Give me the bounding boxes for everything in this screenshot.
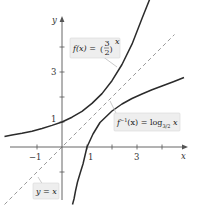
x-tick-label-neg1: −1 (29, 152, 42, 162)
exponential-label-prefix: f(x) = (72, 44, 96, 53)
logarithm-label-inverse-sup: −1 (120, 117, 127, 123)
x-axis: −1 1 3 x (10, 145, 188, 163)
y-tick-label-3: 3 (51, 67, 56, 77)
logarithm-label-x: x (170, 118, 178, 127)
y-axis-arrow-icon (60, 16, 65, 22)
paren-open: ( (100, 45, 103, 54)
paren-close: ) (110, 45, 113, 54)
y-axis-label: y (51, 15, 57, 25)
x-axis-label: x (181, 151, 186, 161)
x-tick-label-3: 3 (134, 152, 139, 162)
exponential-label: f(x) = ( 3 2 ) x (70, 37, 120, 67)
exponential-label-exponent: x (115, 37, 120, 46)
logarithm-label-mid: (x) = log (127, 118, 162, 127)
logarithm-curve (73, 78, 185, 205)
identity-label: y = x (33, 177, 59, 199)
x-tick-label-1: 1 (88, 152, 93, 162)
y-tick-label-1: 1 (51, 114, 56, 124)
logarithm-label-base: 3/2 (162, 123, 170, 129)
identity-label-text: y = x (35, 187, 57, 196)
function-inverse-graph: −1 1 3 x 1 3 y f(x) = ( 3 2 ) x f−1( (0, 0, 200, 209)
x-axis-arrow-icon (182, 145, 188, 150)
y-axis: 1 3 y (51, 15, 65, 200)
